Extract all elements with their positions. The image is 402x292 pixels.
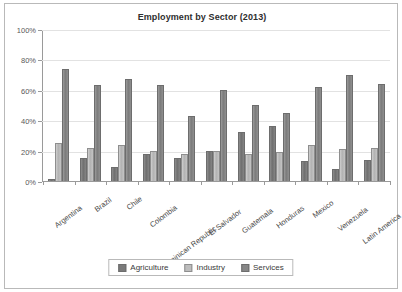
bar-group <box>295 30 327 181</box>
x-axis-label-argentina: Argentina <box>53 203 84 230</box>
bar-agriculture-honduras[interactable] <box>269 126 276 181</box>
bar-services-el-salvador[interactable] <box>220 90 227 181</box>
y-axis-tick <box>38 182 42 183</box>
bar-services-honduras[interactable] <box>283 113 290 181</box>
legend-swatch-icon <box>118 264 126 272</box>
x-axis-label-latin-america: Latin America <box>361 211 402 246</box>
bar-services-chile[interactable] <box>125 79 132 181</box>
bar-agriculture-venezuela[interactable] <box>332 169 339 181</box>
legend-item-agriculture[interactable]: Agriculture <box>118 263 168 272</box>
bar-industry-el-salvador[interactable] <box>213 151 220 181</box>
bar-agriculture-argentina[interactable] <box>48 179 55 181</box>
x-axis-label-colombia: Colombia <box>148 203 179 229</box>
y-axis-tick <box>38 30 42 31</box>
y-axis-tick-label: 0% <box>25 178 36 187</box>
bar-services-latin-america[interactable] <box>378 84 385 181</box>
bar-group <box>327 30 359 181</box>
x-axis-label-brazil: Brazil <box>93 195 113 213</box>
bar-industry-brazil[interactable] <box>87 148 94 181</box>
bar-agriculture-mexico[interactable] <box>301 161 308 181</box>
bar-group <box>169 30 201 181</box>
bar-group <box>264 30 296 181</box>
bar-industry-argentina[interactable] <box>55 143 62 181</box>
bar-services-brazil[interactable] <box>94 85 101 181</box>
x-axis-label-chile: Chile <box>125 194 144 211</box>
bar-industry-honduras[interactable] <box>276 152 283 181</box>
bar-group <box>201 30 233 181</box>
bar-services-mexico[interactable] <box>315 87 322 181</box>
bar-agriculture-colombia[interactable] <box>143 154 150 181</box>
bar-series-container <box>43 30 390 181</box>
x-axis-label-honduras: Honduras <box>274 204 305 231</box>
bar-industry-venezuela[interactable] <box>339 149 346 181</box>
bar-group <box>75 30 107 181</box>
bar-group <box>358 30 390 181</box>
legend-item-industry[interactable]: Industry <box>185 263 225 272</box>
legend-swatch-icon <box>241 264 249 272</box>
y-axis-tick <box>38 91 42 92</box>
bar-agriculture-el-salvador[interactable] <box>206 151 213 181</box>
bar-group <box>43 30 75 181</box>
bar-group <box>106 30 138 181</box>
legend-swatch-icon <box>185 264 193 272</box>
bar-group <box>232 30 264 181</box>
y-axis-tick-label: 80% <box>21 56 36 65</box>
x-axis-labels: ArgentinaBrazilChileColombiaDominican Re… <box>43 184 391 242</box>
y-axis-tick <box>38 121 42 122</box>
bar-services-venezuela[interactable] <box>346 75 353 181</box>
plot-region: 100%80%60%40%20%0% <box>42 30 390 182</box>
y-axis-tick-label: 20% <box>21 147 36 156</box>
chart-legend: AgricultureIndustryServices <box>108 259 293 276</box>
bar-agriculture-chile[interactable] <box>111 167 118 181</box>
bar-industry-dominican-republic[interactable] <box>181 154 188 181</box>
y-axis-tick <box>38 152 42 153</box>
bar-services-dominican-republic[interactable] <box>188 116 195 181</box>
y-axis-tick-label: 40% <box>21 117 36 126</box>
bar-industry-mexico[interactable] <box>308 145 315 181</box>
bar-agriculture-brazil[interactable] <box>80 158 87 181</box>
y-axis-tick-label: 100% <box>17 26 36 35</box>
bar-agriculture-guatemala[interactable] <box>238 132 245 181</box>
x-axis-label-venezuela: Venezuela <box>336 205 369 233</box>
bar-industry-guatemala[interactable] <box>245 154 252 181</box>
chart-container: Employment by Sector (2013) 100%80%60%40… <box>4 3 398 289</box>
x-axis-label-guatemala: Guatemala <box>240 206 275 235</box>
legend-label: Services <box>253 263 284 272</box>
bar-group <box>138 30 170 181</box>
y-axis-tick-label: 60% <box>21 86 36 95</box>
bar-services-argentina[interactable] <box>62 69 69 181</box>
legend-item-services[interactable]: Services <box>241 263 284 272</box>
chart-title: Employment by Sector (2013) <box>5 12 399 22</box>
bar-agriculture-dominican-republic[interactable] <box>174 158 181 181</box>
bar-services-colombia[interactable] <box>157 85 164 181</box>
bar-industry-latin-america[interactable] <box>371 148 378 181</box>
legend-label: Industry <box>197 263 225 272</box>
y-axis-tick <box>38 60 42 61</box>
bar-industry-colombia[interactable] <box>150 151 157 181</box>
x-axis-label-mexico: Mexico <box>311 198 335 219</box>
x-axis-label-el-salvador: El Salvador <box>207 207 243 237</box>
bar-industry-chile[interactable] <box>118 145 125 181</box>
bar-services-guatemala[interactable] <box>252 105 259 181</box>
legend-label: Agriculture <box>130 263 168 272</box>
bar-agriculture-latin-america[interactable] <box>364 160 371 181</box>
